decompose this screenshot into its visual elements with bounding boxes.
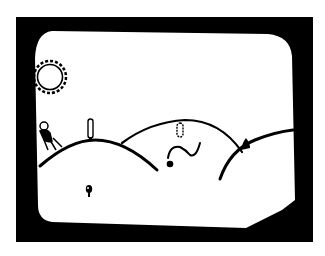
sun-icon — [34, 61, 66, 93]
cactus-middle-icon — [177, 123, 183, 137]
screen-area — [35, 31, 295, 228]
game-screen — [0, 0, 325, 256]
cactus-left-icon — [88, 119, 93, 141]
